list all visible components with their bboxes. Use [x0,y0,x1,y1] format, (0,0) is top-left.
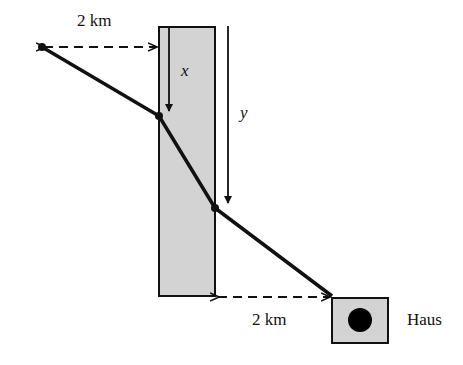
diagram-canvas [0,0,463,365]
top-distance-label: 2 km [77,11,111,31]
x-variable-label: x [181,61,189,81]
river-exit-point [211,204,219,212]
y-variable-label: y [240,103,248,123]
house-dot [348,308,372,332]
start-point [38,43,46,51]
bottom-distance-label: 2 km [252,310,286,330]
river-entry-point [155,112,163,120]
house-label: Haus [407,310,442,330]
